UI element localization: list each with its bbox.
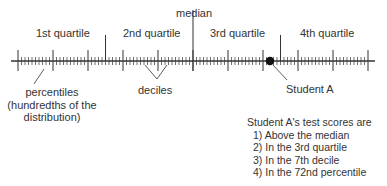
quartile-1-label: 1st quartile <box>36 27 90 39</box>
percentiles-label-line-3: distribution) <box>7 111 96 124</box>
notes-heading: Student A's test scores are <box>247 116 372 129</box>
note-item-2: 2) In the 3rd quartile <box>247 141 372 154</box>
percentiles-label: percentiles (hundredths of the distribut… <box>7 86 96 124</box>
quartile-3-label: 3rd quartile <box>210 27 265 39</box>
student-pointer <box>273 65 287 80</box>
deciles-pointer <box>145 65 167 79</box>
note-item-4: 4) In the 72nd percentile <box>247 166 372 179</box>
note-item-1: 1) Above the median <box>247 129 372 142</box>
student-a-marker <box>266 57 274 65</box>
note-item-3: 3) In the 7th decile <box>247 154 372 167</box>
percentiles-label-line-2: (hundredths of the <box>7 99 96 112</box>
median-label: median <box>176 7 212 19</box>
percentiles-label-line-1: percentiles <box>7 86 96 99</box>
student-a-label: Student A <box>286 83 334 95</box>
quartile-4-label: 4th quartile <box>300 27 354 39</box>
deciles-label: deciles <box>138 84 172 96</box>
student-scores-notes: Student A's test scores are 1) Above the… <box>263 116 372 179</box>
percentiles-pointer <box>34 69 44 84</box>
quartile-2-label: 2nd quartile <box>123 27 181 39</box>
